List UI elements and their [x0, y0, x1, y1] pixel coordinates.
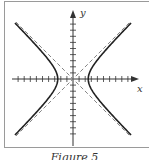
figure-caption: Figure 5	[0, 151, 149, 160]
x-axis-label: x	[137, 83, 143, 94]
y-axis-arrow-icon	[70, 10, 76, 18]
hyperbola-plot	[0, 0, 149, 149]
x-axis-arrow-icon	[131, 76, 139, 82]
y-axis-label: y	[80, 7, 86, 18]
